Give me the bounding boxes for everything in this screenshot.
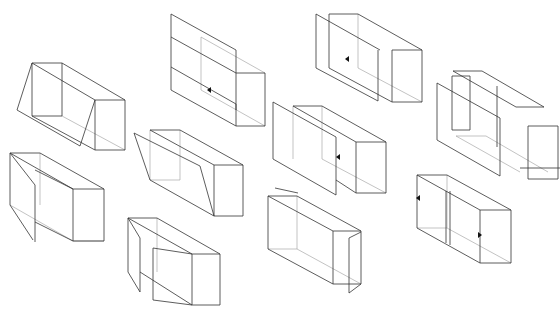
edge (417, 175, 480, 210)
edge (180, 130, 243, 165)
edge (268, 249, 333, 284)
edge (275, 188, 298, 193)
box-10 (416, 175, 511, 263)
edge (10, 153, 35, 185)
edge (297, 196, 361, 231)
box-9 (268, 188, 361, 293)
edge (150, 130, 214, 165)
edge (268, 196, 333, 231)
wireframe-boxes-diagram (0, 0, 560, 315)
edge (316, 68, 378, 101)
edge (10, 205, 73, 241)
edge (329, 68, 392, 102)
edge (140, 272, 192, 305)
edge (453, 71, 516, 107)
edge (447, 175, 511, 210)
edge (482, 71, 544, 107)
edge (437, 83, 500, 118)
edge (322, 159, 386, 193)
box-5 (10, 153, 104, 242)
edge (171, 90, 236, 126)
arrow-left-icon (345, 56, 349, 62)
edge (201, 90, 265, 126)
edge (349, 232, 361, 238)
edge (358, 14, 422, 50)
edge (316, 14, 380, 50)
edge (322, 106, 386, 142)
edge (358, 68, 422, 102)
edge (62, 63, 125, 100)
edge (150, 180, 214, 216)
box-3 (316, 14, 422, 102)
edge (437, 140, 500, 176)
edge (293, 106, 356, 142)
box-8 (273, 102, 386, 195)
diagram-canvas (0, 0, 560, 315)
box-1 (17, 63, 125, 150)
box-2 (171, 14, 265, 126)
edge (349, 284, 361, 293)
edge (17, 63, 32, 110)
box-6 (134, 130, 243, 216)
edge (40, 153, 104, 189)
edge (153, 300, 192, 305)
edge (157, 218, 220, 254)
edge (201, 37, 265, 73)
edge (336, 180, 356, 193)
edge (171, 14, 236, 50)
box-7 (128, 218, 220, 305)
edge (200, 166, 214, 216)
edge (456, 136, 520, 172)
edge (10, 153, 73, 189)
box-4 (437, 71, 560, 179)
edge (32, 63, 95, 100)
edge (297, 249, 361, 284)
edge (35, 222, 73, 241)
edge (486, 136, 548, 172)
edge (62, 116, 125, 150)
edge (35, 170, 73, 189)
edge (128, 218, 192, 254)
edge (10, 205, 33, 240)
edge (17, 110, 80, 146)
edge (273, 102, 336, 137)
edge (171, 37, 236, 73)
edge (128, 272, 140, 292)
arrow-left-icon (336, 154, 340, 160)
edge (80, 100, 95, 146)
edge (32, 116, 95, 150)
edge (171, 67, 236, 104)
edge (417, 228, 480, 263)
